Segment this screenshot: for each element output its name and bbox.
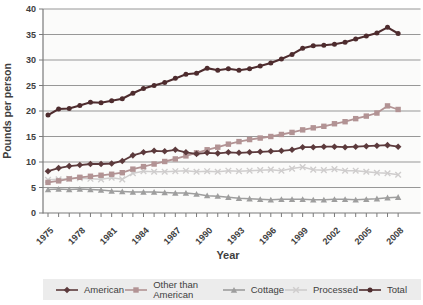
y-tick-label: 30 — [26, 55, 36, 65]
chart-svg: 0510152025303540197519781981198419871990… — [0, 0, 423, 270]
circle-marker — [290, 52, 295, 57]
square-marker — [364, 113, 369, 118]
circle-marker — [353, 37, 358, 42]
circle-marker — [332, 42, 337, 47]
circle-marker — [183, 72, 188, 77]
square-marker — [67, 176, 72, 181]
square-marker — [268, 134, 273, 139]
square-marker — [395, 107, 400, 112]
circle-marker — [396, 31, 401, 36]
square-marker — [130, 166, 135, 171]
plot-area: 0510152025303540197519781981198419871990… — [26, 4, 421, 247]
square-marker — [332, 121, 337, 126]
x-tick-label: 1996 — [257, 225, 278, 246]
x-tick-label: 1993 — [225, 225, 246, 246]
x-tick-label: 2005 — [352, 225, 373, 246]
circle-marker — [226, 66, 231, 71]
chart-legend: American Other than American Cottage Pro… — [43, 279, 421, 300]
circle-marker — [215, 68, 220, 73]
square-marker — [173, 156, 178, 161]
circle-marker — [343, 40, 348, 45]
y-tick-label: 40 — [26, 4, 36, 14]
processed-x-legend-icon — [284, 284, 308, 296]
diamond-marker — [64, 286, 71, 293]
x-tick-label: 2008 — [384, 225, 405, 246]
square-marker — [133, 287, 138, 292]
legend-item-total: Total — [358, 284, 407, 296]
y-tick-label: 10 — [26, 157, 36, 167]
square-marker — [300, 127, 305, 132]
y-tick-label: 25 — [26, 81, 36, 91]
y-axis-label: Pounds per person — [1, 63, 13, 159]
y-tick-label: 20 — [26, 106, 36, 116]
square-marker — [215, 145, 220, 150]
circle-marker — [367, 287, 372, 292]
other-than-american-square-legend-icon — [124, 284, 148, 296]
circle-marker — [279, 56, 284, 61]
square-marker — [258, 135, 263, 140]
square-marker — [247, 137, 252, 142]
square-marker — [289, 130, 294, 135]
circle-marker — [162, 80, 167, 85]
cottage-triangle-legend-icon — [222, 284, 246, 296]
square-marker — [385, 103, 390, 108]
square-marker — [56, 178, 61, 183]
circle-marker — [300, 46, 305, 51]
circle-marker — [194, 71, 199, 76]
x-tick-label: 1999 — [289, 225, 310, 246]
circle-marker — [173, 76, 178, 81]
x-tick-label: 1987 — [161, 225, 182, 246]
square-marker — [109, 172, 114, 177]
square-marker — [88, 174, 93, 179]
circle-marker — [120, 96, 125, 101]
square-marker — [141, 164, 146, 169]
x-tick-label: 2002 — [321, 225, 342, 246]
circle-marker — [205, 66, 210, 71]
square-marker — [45, 180, 50, 185]
square-marker — [226, 141, 231, 146]
square-marker — [98, 173, 103, 178]
x-tick-label: 1990 — [193, 225, 214, 246]
circle-marker — [321, 43, 326, 48]
circle-marker — [99, 100, 104, 105]
square-marker — [311, 125, 316, 130]
square-marker — [321, 124, 326, 129]
legend-label-total: Total — [387, 285, 407, 295]
square-marker — [342, 119, 347, 124]
square-marker — [353, 116, 358, 121]
legend-item-cottage: Cottage — [222, 284, 284, 296]
circle-marker — [141, 86, 146, 91]
x-tick-label: 1978 — [66, 225, 87, 246]
circle-marker — [109, 98, 114, 103]
circle-marker — [236, 68, 241, 73]
x-tick-label: 1981 — [98, 225, 119, 246]
circle-marker — [247, 66, 252, 71]
square-marker — [77, 175, 82, 180]
total-circle-legend-icon — [358, 284, 382, 296]
legend-label-cottage: Cottage — [251, 285, 284, 295]
square-marker — [279, 132, 284, 137]
square-marker — [162, 159, 167, 164]
circle-marker — [258, 64, 263, 69]
y-tick-label: 5 — [31, 183, 36, 193]
legend-item-other-than-american: Other than American — [124, 280, 222, 299]
y-tick-label: 0 — [31, 208, 36, 218]
circle-marker — [268, 61, 273, 66]
y-tick-label: 15 — [26, 132, 36, 142]
legend-item-processed: Processed — [284, 284, 358, 296]
circle-marker — [130, 91, 135, 96]
square-marker — [236, 139, 241, 144]
circle-marker — [385, 25, 390, 30]
x-axis-label: Year — [216, 249, 240, 261]
legend-label-other-than-american: Other than American — [153, 280, 222, 299]
legend-item-american: American — [55, 284, 124, 296]
circle-marker — [311, 43, 316, 48]
circle-marker — [88, 100, 93, 105]
circle-marker — [46, 113, 51, 118]
legend-label-american: American — [84, 285, 124, 295]
square-marker — [374, 110, 379, 115]
y-tick-label: 35 — [26, 30, 36, 40]
square-marker — [151, 161, 156, 166]
circle-marker — [364, 34, 369, 39]
x-tick-label: 1984 — [130, 225, 151, 246]
